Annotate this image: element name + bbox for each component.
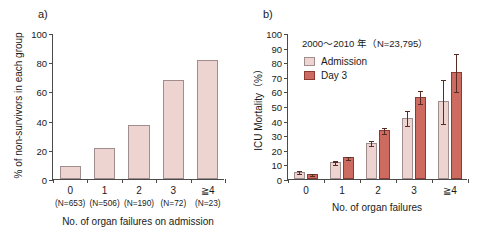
y-tick-label: 60	[36, 87, 47, 98]
x-tick-mark	[156, 179, 157, 183]
error-bar-cap-lower	[346, 160, 351, 161]
legend-item-admission: Admission	[304, 56, 367, 67]
x-tick-label: ≧4	[201, 185, 215, 196]
y-tick-label: 60	[271, 87, 282, 98]
panel-a-label: a)	[38, 8, 48, 20]
panel-a: a) % of non-survivors in each group 0204…	[0, 0, 245, 233]
panel-b-label: b)	[263, 8, 273, 20]
x-tick-mark	[53, 179, 54, 183]
error-bar-cap-upper	[297, 171, 302, 172]
panel-b-plot-area: 0102030405060708090100 0123≧4 2000～2010 …	[287, 34, 467, 180]
y-tick-mark	[284, 151, 288, 152]
y-tick-mark	[284, 122, 288, 123]
y-tick-label: 0	[277, 175, 282, 186]
error-bar-cap-upper	[454, 54, 459, 55]
panel-b-y-axis-title: ICU Mortality（%）	[250, 35, 265, 181]
x-tick-mark	[225, 179, 226, 183]
error-bar-cap-upper	[382, 128, 387, 129]
x-tick-mark	[432, 179, 433, 183]
legend-label-admission: Admission	[321, 56, 367, 67]
y-tick-mark	[284, 92, 288, 93]
legend-swatch-day3-icon	[304, 71, 315, 80]
y-tick-label: 0	[42, 175, 47, 186]
legend-label-day3: Day 3	[321, 70, 347, 81]
x-tick-sublabel: (N=23)	[195, 198, 221, 208]
error-bar-cap-lower	[310, 176, 315, 177]
x-tick-mark	[396, 179, 397, 183]
y-tick-label: 100	[31, 29, 47, 40]
y-tick-label: 50	[271, 102, 282, 113]
bar-non-survivors	[128, 125, 149, 179]
x-tick-sublabel: (N=506)	[89, 198, 119, 208]
x-tick-mark	[468, 179, 469, 183]
y-tick-mark	[49, 122, 53, 123]
error-bar-cap-upper	[418, 91, 423, 92]
y-tick-label: 40	[271, 116, 282, 127]
error-bar-cap-upper	[310, 174, 315, 175]
x-tick-label: 2	[136, 185, 142, 196]
y-tick-mark	[49, 63, 53, 64]
x-tick-sublabel: (N=653)	[55, 198, 85, 208]
panel-b-x-axis-title: No. of organ failures	[287, 202, 467, 213]
y-tick-mark	[284, 107, 288, 108]
bar-non-survivors	[60, 166, 81, 179]
error-bar-cap-upper	[405, 111, 410, 112]
panel-b-plot-title: 2000～2010 年（N=23,795）	[302, 36, 428, 50]
y-tick-mark	[284, 136, 288, 137]
error-bar-cap-lower	[441, 124, 446, 125]
x-tick-label: 1	[102, 185, 108, 196]
error-bar-cap-lower	[418, 104, 423, 105]
bar-non-survivors	[197, 60, 218, 179]
error-bar-cap-lower	[369, 146, 374, 147]
error-bar-line	[420, 91, 421, 104]
x-tick-label: 3	[411, 185, 417, 196]
x-tick-mark	[360, 179, 361, 183]
y-tick-mark	[284, 78, 288, 79]
bar-non-survivors	[163, 80, 184, 179]
y-tick-mark	[49, 34, 53, 35]
y-tick-mark	[49, 151, 53, 152]
x-tick-label: 2	[375, 185, 381, 196]
figure-container: a) % of non-survivors in each group 0204…	[0, 0, 490, 233]
y-tick-mark	[49, 92, 53, 93]
y-tick-label: 70	[271, 72, 282, 83]
y-tick-mark	[284, 63, 288, 64]
y-tick-label: 90	[271, 43, 282, 54]
error-bar-line	[407, 111, 408, 126]
y-tick-label: 10	[271, 160, 282, 171]
x-tick-label: 0	[67, 185, 73, 196]
x-tick-mark	[288, 179, 289, 183]
y-tick-label: 40	[36, 116, 47, 127]
error-bar-cap-lower	[333, 165, 338, 166]
bar-admission	[366, 143, 377, 180]
y-tick-label: 20	[36, 145, 47, 156]
x-tick-mark	[122, 179, 123, 183]
error-bar-line	[443, 80, 444, 124]
x-tick-label: 0	[303, 185, 309, 196]
error-bar-line	[456, 54, 457, 92]
panel-a-x-axis-title: No. of organ failures on admission	[52, 216, 224, 227]
y-tick-label: 30	[271, 131, 282, 142]
error-bar-cap-lower	[454, 92, 459, 93]
x-tick-label: ≧4	[443, 185, 457, 196]
x-tick-mark	[191, 179, 192, 183]
panel-b-legend: Admission Day 3	[304, 56, 367, 84]
legend-swatch-admission-icon	[304, 57, 315, 66]
y-tick-mark	[284, 34, 288, 35]
x-tick-label: 3	[171, 185, 177, 196]
error-bar-cap-upper	[441, 80, 446, 81]
panel-a-y-axis-title: % of non-survivors in each group	[13, 33, 24, 179]
x-tick-sublabel: (N=190)	[124, 198, 154, 208]
error-bar-cap-lower	[297, 174, 302, 175]
y-tick-label: 80	[271, 58, 282, 69]
bar-day3	[379, 130, 390, 179]
panel-b: b) ICU Mortality（%） 01020304050607080901…	[245, 0, 490, 233]
panel-a-plot-area: 020406080100 0(N=653)1(N=506)2(N=190)3(N…	[52, 34, 224, 180]
bar-non-survivors	[94, 148, 115, 179]
legend-item-day3: Day 3	[304, 70, 367, 81]
error-bar-cap-upper	[346, 157, 351, 158]
error-bar-cap-lower	[382, 134, 387, 135]
error-bar-cap-lower	[405, 126, 410, 127]
x-tick-mark	[324, 179, 325, 183]
y-tick-label: 100	[266, 29, 282, 40]
